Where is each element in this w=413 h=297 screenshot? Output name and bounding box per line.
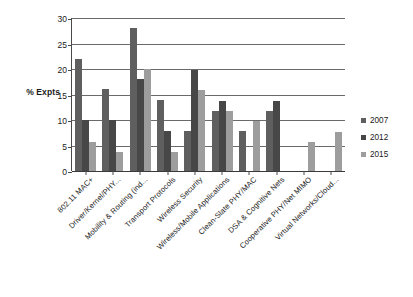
bar-2012 xyxy=(109,120,116,171)
bar-2007 xyxy=(75,59,82,171)
bar-2007 xyxy=(239,131,246,171)
legend-swatch-icon xyxy=(361,152,366,157)
bar-group xyxy=(99,18,126,171)
bar-group xyxy=(208,18,235,171)
bar-group xyxy=(236,18,263,171)
bar-group xyxy=(290,18,317,171)
bar-2015 xyxy=(253,121,260,171)
bar-2015 xyxy=(116,152,123,171)
bar-2012 xyxy=(273,101,280,171)
bar-2015 xyxy=(171,152,178,171)
y-tick-label-10: 10 xyxy=(58,116,67,126)
bar-group xyxy=(154,18,181,171)
bar-2015 xyxy=(308,142,315,171)
bar-2007 xyxy=(157,100,164,171)
bar-2015 xyxy=(144,69,151,171)
bar-2015 xyxy=(89,142,96,171)
bar-group xyxy=(181,18,208,171)
bar-2015 xyxy=(226,111,233,171)
legend-swatch-icon xyxy=(361,135,366,140)
y-tick-label-15: 15 xyxy=(58,91,67,101)
chart-legend: 200720122015 xyxy=(361,112,411,163)
bar-2012 xyxy=(82,120,89,171)
legend-item-2007[interactable]: 2007 xyxy=(361,112,411,129)
plot-area: 051015202530 xyxy=(71,18,344,171)
y-tick-label-25: 25 xyxy=(58,40,67,50)
bar-chart: % Expts 051015202530 802.11 MAC+Driver/K… xyxy=(0,0,413,297)
bar-group xyxy=(72,18,99,171)
bar-2012 xyxy=(164,131,171,171)
bar-2007 xyxy=(184,131,191,171)
legend-swatch-icon xyxy=(361,118,366,123)
bar-2012 xyxy=(137,79,144,171)
bar-group xyxy=(127,18,154,171)
bar-2007 xyxy=(102,89,109,171)
bar-2007 xyxy=(130,28,137,171)
bar-2015 xyxy=(335,132,342,171)
y-tick-label-20: 20 xyxy=(58,65,67,75)
bar-2007 xyxy=(212,111,219,171)
legend-item-2015[interactable]: 2015 xyxy=(361,146,411,163)
legend-label: 2015 xyxy=(370,150,388,159)
x-axis-label: Transport Protocols xyxy=(123,175,177,229)
bar-2015 xyxy=(198,90,205,171)
y-tick-label-0: 0 xyxy=(62,167,67,177)
bar-2012 xyxy=(219,101,226,171)
y-axis-title: % Expts xyxy=(14,87,60,97)
legend-label: 2012 xyxy=(370,133,388,142)
y-tick-label-30: 30 xyxy=(58,14,67,24)
bar-group xyxy=(263,18,290,171)
legend-label: 2007 xyxy=(370,116,388,125)
bar-2012 xyxy=(191,70,198,171)
y-tick-label-5: 5 xyxy=(62,142,67,152)
bar-groups xyxy=(72,18,345,171)
bar-group xyxy=(318,18,345,171)
bar-2007 xyxy=(266,111,273,171)
x-axis-category-labels: 802.11 MAC+Driver/Kernel/PHY...Mobility … xyxy=(71,171,344,291)
legend-item-2012[interactable]: 2012 xyxy=(361,129,411,146)
